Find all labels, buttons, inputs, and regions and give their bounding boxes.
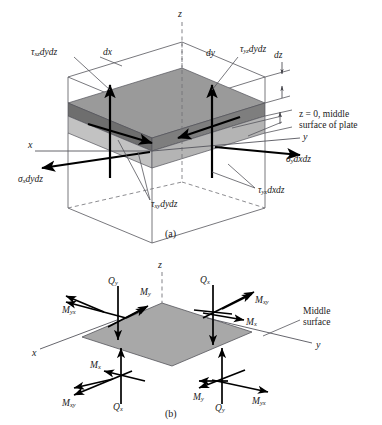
panel-a-label-sigma-y: σydxdz [286,154,311,164]
panel-b-annotation-line2: surface [303,317,330,327]
panel-a-y-axis-label: y [302,131,308,142]
panel-b-annotation-line1: Middle [303,306,330,316]
panel-b-x-axis-label: x [31,347,37,358]
figure-root: z [0,0,382,425]
panel-a-label-sigma-x: σxdydz [18,174,43,184]
panel-a-dy-label: dy [206,48,216,58]
panel-a-x-axis-label: x [27,139,33,150]
panel-b-caption: (b) [165,408,177,420]
figure-svg: z [0,0,382,425]
panel-a-dx-label: dx [103,47,113,57]
panel-b-z-axis-label: z [157,259,162,270]
panel-a-annotation-line1: z = 0, middle [299,109,349,119]
panel-a-caption: (a) [165,228,176,240]
panel-a-z-axis-label: z [177,8,182,19]
panel-b-y-axis-label: y [315,339,321,350]
panel-a-annotation-line2: surface of plate [299,120,358,130]
canvas-background [0,0,382,425]
panel-a-dz-label: dz [274,50,283,60]
